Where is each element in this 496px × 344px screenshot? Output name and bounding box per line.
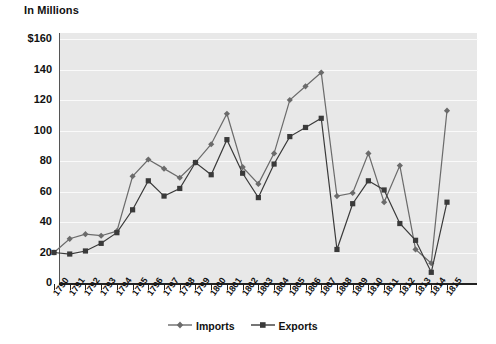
data-point	[334, 247, 339, 252]
data-point	[130, 207, 135, 212]
data-point	[224, 111, 230, 117]
data-point	[429, 270, 434, 275]
data-point	[67, 251, 72, 256]
data-point	[366, 178, 371, 183]
data-point	[209, 172, 214, 177]
legend-entry-exports[interactable]: Exports	[251, 320, 318, 332]
data-point	[99, 241, 104, 246]
chart-legend: ImportsExports	[168, 320, 318, 332]
data-series-layer	[0, 0, 496, 344]
data-point	[146, 178, 151, 183]
data-point	[114, 230, 119, 235]
data-point	[256, 195, 261, 200]
data-point	[193, 160, 198, 165]
data-point	[271, 161, 276, 166]
legend-diamond-marker-icon	[168, 320, 192, 332]
data-point	[177, 186, 182, 191]
data-point	[397, 162, 403, 168]
data-point	[444, 108, 450, 114]
legend-label: Exports	[279, 321, 318, 332]
legend-entry-imports[interactable]: Imports	[168, 320, 235, 332]
legend-label: Imports	[196, 321, 235, 332]
data-point	[413, 238, 418, 243]
chart-container: In Millions $160140120100806040200 17901…	[0, 0, 496, 344]
data-point	[350, 190, 356, 196]
data-point	[334, 193, 340, 199]
series-line	[54, 73, 447, 264]
data-point	[82, 231, 88, 237]
data-point	[350, 201, 355, 206]
legend-square-marker-icon	[251, 320, 275, 332]
data-point	[240, 171, 245, 176]
data-point	[381, 199, 387, 205]
data-point	[161, 166, 167, 172]
data-point	[271, 150, 277, 156]
series-line	[54, 118, 447, 272]
data-point	[98, 233, 104, 239]
data-point	[397, 221, 402, 226]
series-exports	[51, 116, 449, 275]
data-point	[303, 125, 308, 130]
data-point	[51, 250, 56, 255]
data-point	[382, 187, 387, 192]
data-point	[444, 200, 449, 205]
data-point	[161, 193, 166, 198]
data-point	[224, 137, 229, 142]
data-point	[83, 248, 88, 253]
data-point	[365, 150, 371, 156]
data-point	[287, 134, 292, 139]
data-point	[319, 116, 324, 121]
